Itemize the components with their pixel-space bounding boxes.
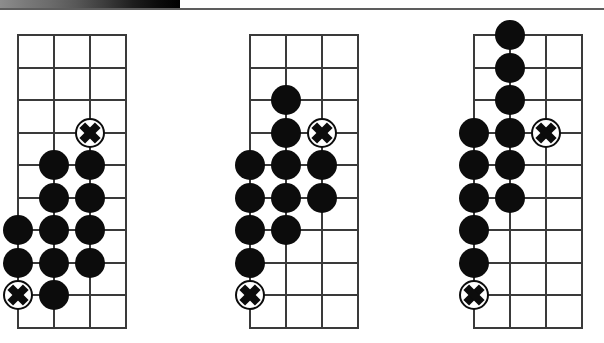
black-stone[interactable] [75,150,105,180]
grid-line-horizontal [249,164,359,166]
black-stone[interactable] [235,248,265,278]
black-stone[interactable] [235,150,265,180]
black-stone[interactable] [495,183,525,213]
grid-line-vertical [285,34,287,327]
black-stone[interactable] [459,215,489,245]
grid-line-vertical [125,34,127,327]
diagram-canvas [0,0,604,343]
black-stone[interactable] [459,150,489,180]
grid-line-horizontal [473,164,583,166]
black-stone[interactable] [3,215,33,245]
grid-line-horizontal [473,197,583,199]
grid-line-horizontal [249,197,359,199]
marked-stone-x[interactable] [531,118,561,148]
grid-line-horizontal [473,327,583,329]
grid-line-horizontal [17,34,127,36]
black-stone[interactable] [495,85,525,115]
black-stone[interactable] [39,150,69,180]
grid-line-horizontal [17,262,127,264]
grid-line-horizontal [17,99,127,101]
marked-stone-x[interactable] [235,280,265,310]
black-stone[interactable] [459,118,489,148]
black-stone[interactable] [39,248,69,278]
panel-2 [249,34,357,327]
grid-line-horizontal [473,34,583,36]
grid-line-horizontal [249,67,359,69]
grid-line-horizontal [249,327,359,329]
grid-line-horizontal [249,34,359,36]
grid-line-horizontal [473,262,583,264]
grid-line-horizontal [17,67,127,69]
grid-line-vertical [581,34,583,327]
page-top-rule [0,8,604,10]
grid-line-horizontal [249,99,359,101]
grid-line-vertical [89,34,91,327]
grid-line-horizontal [473,99,583,101]
grid-line-vertical [545,34,547,327]
grid-line-horizontal [249,262,359,264]
black-stone[interactable] [75,183,105,213]
black-stone[interactable] [39,280,69,310]
black-stone[interactable] [495,53,525,83]
black-stone[interactable] [39,183,69,213]
grid-line-horizontal [473,132,583,134]
grid-line-horizontal [473,294,583,296]
grid-line-vertical [321,34,323,327]
black-stone[interactable] [235,183,265,213]
marked-stone-x[interactable] [459,280,489,310]
black-stone[interactable] [459,183,489,213]
black-stone[interactable] [39,215,69,245]
panel-3 [473,34,581,327]
black-stone[interactable] [307,183,337,213]
black-stone[interactable] [271,150,301,180]
black-stone[interactable] [3,248,33,278]
grid-line-horizontal [249,294,359,296]
grid-line-horizontal [249,132,359,134]
grid-line-horizontal [17,327,127,329]
black-stone[interactable] [75,215,105,245]
black-stone[interactable] [271,85,301,115]
marked-stone-x[interactable] [3,280,33,310]
grid-line-horizontal [473,67,583,69]
black-stone[interactable] [495,20,525,50]
black-stone[interactable] [271,183,301,213]
grid-line-horizontal [249,229,359,231]
grid-line-horizontal [17,164,127,166]
black-stone[interactable] [307,150,337,180]
grid-line-vertical [357,34,359,327]
black-stone[interactable] [271,215,301,245]
black-stone[interactable] [459,248,489,278]
black-stone[interactable] [495,118,525,148]
black-stone[interactable] [75,248,105,278]
black-stone[interactable] [495,150,525,180]
grid-line-horizontal [17,197,127,199]
black-stone[interactable] [235,215,265,245]
panel-1 [17,34,125,327]
grid-line-horizontal [17,294,127,296]
marked-stone-x[interactable] [307,118,337,148]
scan-artifact-gradient-bar [0,0,180,8]
grid-line-horizontal [473,229,583,231]
marked-stone-x[interactable] [75,118,105,148]
grid-line-horizontal [17,229,127,231]
grid-line-horizontal [17,132,127,134]
black-stone[interactable] [271,118,301,148]
